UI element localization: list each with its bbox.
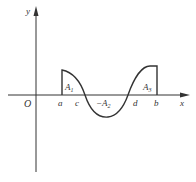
region-a2-label: −A2	[96, 98, 111, 109]
point-a-label: a	[58, 98, 63, 108]
point-d-label: d	[133, 98, 138, 108]
region-a3-label: A3	[142, 82, 152, 93]
point-c-label: c	[75, 98, 79, 108]
region-a1-label: A1	[64, 82, 74, 93]
x-axis-arrow-icon	[180, 93, 190, 98]
point-b-label: b	[154, 98, 159, 108]
origin-label: O	[24, 98, 31, 109]
x-axis-label: x	[179, 98, 184, 108]
svg-text:A3: A3	[142, 82, 152, 93]
svg-text:A1: A1	[64, 82, 74, 93]
svg-text:−A2: −A2	[96, 98, 111, 109]
y-axis-label: y	[25, 6, 30, 16]
y-axis-arrow-icon	[34, 6, 39, 16]
integral-diagram: y O x a c d b A1 −A2 A3	[0, 0, 196, 182]
